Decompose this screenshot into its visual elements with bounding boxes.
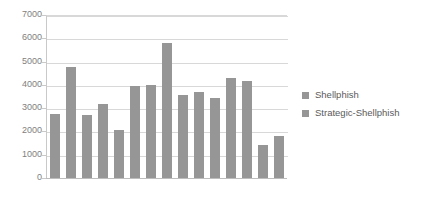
- y-axis-tick-label: 3000: [2, 103, 42, 112]
- x-axis-baseline: [46, 178, 287, 179]
- y-axis-tick-label: 2000: [2, 126, 42, 135]
- bar: [178, 95, 188, 178]
- bar: [82, 115, 92, 178]
- bar: [242, 81, 252, 178]
- bar: [98, 104, 108, 179]
- y-axis-tick-label: 4000: [2, 80, 42, 89]
- legend-swatch-icon: [302, 92, 309, 99]
- y-axis-tick-label: 7000: [2, 10, 42, 19]
- y-axis-tick-label: 5000: [2, 57, 42, 66]
- y-axis-tick-label: 1000: [2, 150, 42, 159]
- y-axis-tick-label: 6000: [2, 33, 42, 42]
- bar: [114, 130, 124, 178]
- bar: [274, 136, 284, 178]
- legend-item: Shellphish: [302, 86, 422, 104]
- bar: [210, 98, 220, 178]
- legend-item-label: Shellphish: [315, 90, 359, 100]
- legend-item: Strategic-Shellphish: [302, 104, 422, 122]
- legend-item-label: Strategic-Shellphish: [315, 108, 400, 118]
- bar: [226, 78, 236, 178]
- y-axis-tick-label: 0: [2, 173, 42, 182]
- bar-chart: 01000200030004000500060007000 Shellphish…: [0, 0, 424, 202]
- legend-swatch-icon: [302, 110, 309, 117]
- chart-legend: ShellphishStrategic-Shellphish: [302, 86, 422, 122]
- y-axis: 01000200030004000500060007000: [0, 0, 42, 202]
- bar: [66, 67, 76, 178]
- bars-layer: [47, 15, 287, 178]
- bar: [258, 145, 268, 178]
- bar: [146, 85, 156, 178]
- bar: [50, 114, 60, 178]
- bar: [162, 43, 172, 178]
- bar: [194, 92, 204, 178]
- bar: [130, 86, 140, 178]
